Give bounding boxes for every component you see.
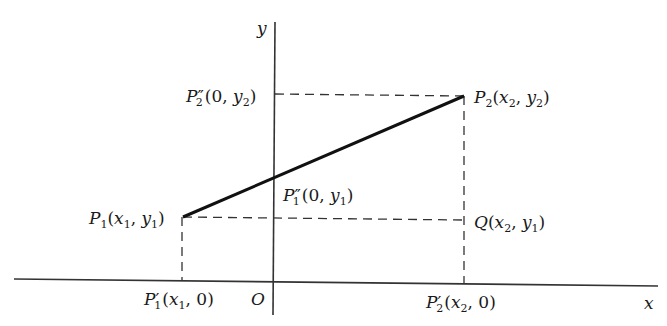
y-axis-label: y xyxy=(256,18,267,38)
label-p1: P1(x1, y1) xyxy=(88,208,165,231)
x-axis-label: x xyxy=(644,293,654,313)
label-p1-prime: P′1(x1, 0) xyxy=(143,289,214,312)
label-p2: P2(x2, y2) xyxy=(473,87,550,110)
origin-label: O xyxy=(251,289,265,309)
label-p2-prime: P′2(x2, 0) xyxy=(425,292,496,315)
dashed-p2-to-p2dprime xyxy=(275,94,464,96)
dashed-p1-to-q xyxy=(183,217,464,220)
x-axis xyxy=(14,279,658,286)
coordinate-diagram: y x O P″2(0, y2) P2(x2, y2) P″1(0, y1) P… xyxy=(0,0,667,326)
label-p1-double-prime: P″1(0, y1) xyxy=(282,185,353,208)
label-q: Q(x2, y1) xyxy=(474,212,545,235)
y-axis xyxy=(273,22,275,315)
label-p2-double-prime: P″2(0, y2) xyxy=(185,86,256,109)
